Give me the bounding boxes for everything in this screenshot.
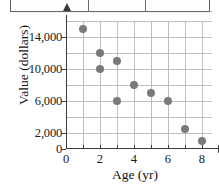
gridline-vertical — [202, 21, 203, 149]
data-point — [130, 81, 138, 89]
data-point — [147, 89, 155, 97]
data-point — [164, 97, 172, 105]
y-axis-line — [66, 15, 67, 149]
y-tick-label: 14,000 — [29, 30, 62, 45]
x-axis-arrow-icon — [218, 145, 219, 153]
data-point — [79, 25, 87, 33]
data-point — [198, 137, 206, 145]
partial-table-strip — [0, 0, 219, 13]
data-point — [181, 125, 189, 133]
y-axis-arrow-icon — [63, 3, 71, 11]
gridline-horizontal — [66, 69, 212, 70]
x-tick-label: 2 — [97, 152, 103, 167]
data-point — [113, 97, 121, 105]
x-axis-tick — [168, 145, 169, 149]
gridline-horizontal — [66, 101, 212, 102]
x-axis-tick — [185, 145, 186, 149]
y-axis-tick — [62, 37, 66, 38]
x-axis-tick — [66, 145, 67, 149]
x-axis-title: Age (yr) — [60, 167, 210, 183]
x-axis-tick — [117, 145, 118, 149]
x-axis-tick — [100, 145, 101, 149]
gridline-horizontal — [66, 21, 212, 22]
gridline-vertical — [83, 21, 84, 149]
x-tick-label: 0 — [63, 152, 69, 167]
gridline-horizontal — [66, 133, 212, 134]
gridline-horizontal — [66, 85, 212, 86]
x-tick-label: 6 — [165, 152, 171, 167]
gridline-horizontal — [66, 37, 212, 38]
x-tick-label: 8 — [199, 152, 205, 167]
x-axis-tick — [83, 145, 84, 149]
y-axis-tick — [62, 133, 66, 134]
y-axis-tick — [62, 149, 66, 150]
data-point — [96, 49, 104, 57]
x-axis-line — [66, 148, 218, 149]
x-axis-tick — [202, 145, 203, 149]
y-tick-label: 2,000 — [35, 126, 62, 141]
x-axis-tick-labels: 02468 — [66, 152, 218, 168]
x-tick-label: 4 — [131, 152, 137, 167]
gridline-vertical — [117, 21, 118, 149]
data-point — [113, 57, 121, 65]
plot-area — [66, 21, 212, 149]
gridline-vertical — [151, 21, 152, 149]
x-axis-tick — [134, 145, 135, 149]
gridline-horizontal — [66, 117, 212, 118]
scatter-chart: 02,0006,00010,00014,000 02468 Value (dol… — [0, 13, 219, 188]
data-point — [96, 65, 104, 73]
y-tick-label: 10,000 — [29, 62, 62, 77]
x-axis-tick — [151, 145, 152, 149]
gridline-vertical — [100, 21, 101, 149]
gridline-vertical — [168, 21, 169, 149]
y-tick-label: 6,000 — [35, 94, 62, 109]
y-axis-title: Value (dollars) — [16, 5, 32, 125]
y-tick-label: 0 — [56, 142, 62, 157]
y-axis-tick — [62, 69, 66, 70]
gridline-horizontal — [66, 53, 212, 54]
y-axis-tick — [62, 101, 66, 102]
